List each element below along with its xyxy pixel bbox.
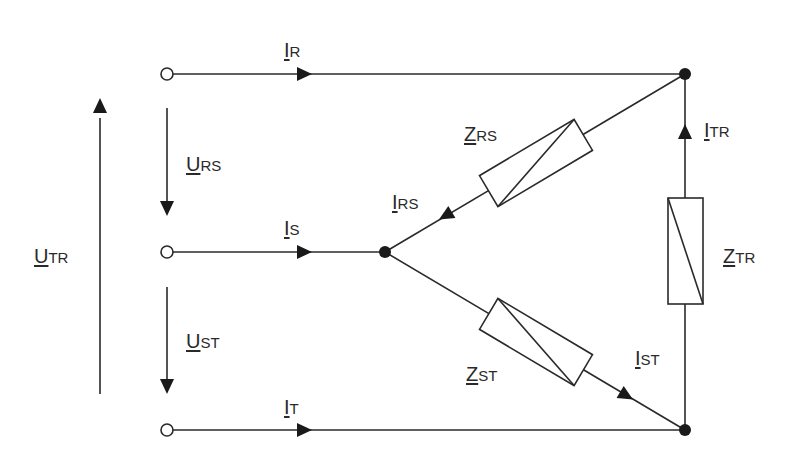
arrow-u-rs-icon [160,201,174,216]
node-top-right [679,68,691,80]
arrow-i-r-icon [297,67,312,81]
label-sub: ST [478,367,497,384]
terminal-s [161,246,173,258]
label-u-rs: URS [186,154,221,174]
circuit-diagram [0,0,800,460]
label-i-tr: ITR [704,120,730,140]
label-sub: RS [398,195,419,212]
label-i-r: IR [284,40,300,60]
label-i-s: IS [284,218,300,238]
arrow-u-tr-icon [93,98,107,113]
label-i-st: IST [635,348,660,368]
arrow-u-st-icon [160,379,174,394]
label-i-t: IT [284,397,299,417]
label-sub: TR [48,249,68,266]
arrow-i-s-icon [297,245,312,259]
label-main: U [186,153,200,175]
label-u-tr: UTR [34,246,68,266]
label-z-rs: ZRS [464,124,497,144]
arrow-i-t-icon [297,423,312,437]
arrow-i-rs-icon [435,206,455,226]
label-main: U [186,330,200,352]
label-sub: ST [200,334,219,351]
label-sub: RS [476,127,497,144]
arrow-i-st-icon [617,386,637,406]
label-sub: R [290,43,301,60]
label-z-tr: ZTR [723,246,755,266]
terminal-t [161,424,173,436]
terminal-r [161,68,173,80]
label-u-st: UST [186,331,220,351]
label-main: U [34,245,48,267]
impedance-z-tr [668,198,703,304]
label-main: Z [466,363,478,385]
label-sub: T [290,400,299,417]
label-z-st: ZST [466,364,497,384]
arrow-i-tr-icon [678,124,692,139]
label-sub: S [290,221,300,238]
label-sub: RS [200,157,221,174]
node-center [379,246,391,258]
label-sub: TR [710,123,730,140]
label-i-rs: IRS [392,192,418,212]
label-sub: TR [735,249,755,266]
label-main: Z [464,123,476,145]
label-sub: ST [641,351,660,368]
label-main: Z [723,245,735,267]
node-bottom-right [679,424,691,436]
